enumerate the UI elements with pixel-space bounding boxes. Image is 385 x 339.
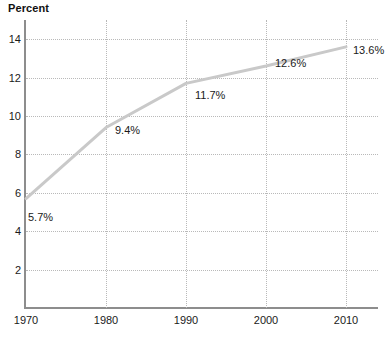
y-tick-label: 4 [1, 226, 21, 237]
y-axis-tick-labels: 2468101214 [0, 20, 21, 308]
y-tick-label: 12 [1, 73, 21, 84]
data-label-2000: 12.6% [275, 57, 306, 69]
plot-area: 5.7%9.4%11.7%12.6%13.6% [26, 20, 378, 308]
y-tick-label: 14 [1, 34, 21, 45]
x-tick-label: 1990 [174, 314, 198, 326]
x-tick-label: 2000 [254, 314, 278, 326]
line-chart: Percent 2468101214 5.7%9.4%11.7%12.6%13.… [0, 0, 385, 339]
x-tick-label: 1980 [94, 314, 118, 326]
y-tick-label: 2 [1, 265, 21, 276]
data-label-1980: 9.4% [115, 124, 140, 136]
data-label-1990: 11.7% [195, 89, 225, 101]
x-axis-tick-labels: 19701980199020002010 [0, 314, 385, 330]
y-tick-label: 6 [1, 188, 21, 199]
y-tick-label: 8 [1, 149, 21, 160]
x-tick-label: 2010 [334, 314, 358, 326]
data-series-line [26, 20, 378, 308]
y-axis-title: Percent [8, 2, 49, 14]
x-tick-label: 1970 [14, 314, 38, 326]
data-label-2010: 13.6% [353, 44, 384, 56]
y-tick-label: 10 [1, 111, 21, 122]
data-label-1970: 5.7% [28, 211, 53, 223]
